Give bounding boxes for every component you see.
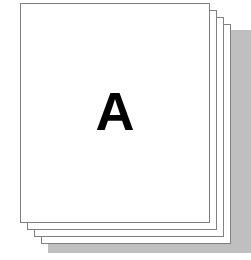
- page-letter-a: A: [21, 4, 209, 222]
- page-letter-a-glyph: A: [96, 84, 135, 138]
- paper-stack-illustration: A: [0, 0, 251, 260]
- sheet-front-1: A: [20, 3, 210, 223]
